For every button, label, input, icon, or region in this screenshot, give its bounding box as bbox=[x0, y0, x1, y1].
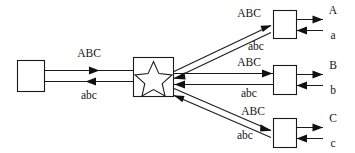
edge-c-to-hub-arrowhead bbox=[174, 95, 185, 102]
terminal-label-b-in: b bbox=[330, 84, 336, 96]
edge-label-bot-upper: ABC bbox=[241, 105, 265, 117]
edge-label-bot-lower: abc bbox=[237, 129, 253, 141]
edge-label-left-lower: abc bbox=[81, 89, 97, 101]
terminal-label-c-out: C bbox=[329, 112, 337, 124]
edge-label-top-upper: ABC bbox=[237, 7, 261, 19]
terminal-b-out-arrowhead bbox=[313, 71, 324, 79]
node-branch-c[interactable] bbox=[274, 119, 297, 148]
terminal-c-out-arrowhead bbox=[313, 124, 324, 132]
edge-label-left-upper: ABC bbox=[77, 47, 101, 59]
node-branch-b[interactable] bbox=[274, 66, 297, 95]
terminal-label-a-out: A bbox=[329, 4, 338, 16]
edge-hub-to-a-arrowhead bbox=[261, 25, 272, 32]
edge-hub-to-b-arrowhead bbox=[262, 70, 273, 78]
edge-hub-to-c-arrowhead bbox=[260, 124, 272, 131]
edge-label-top-lower: abc bbox=[248, 40, 264, 52]
terminal-c-in-arrowhead bbox=[297, 135, 308, 143]
edge-left-inbound-arrowhead bbox=[86, 78, 97, 86]
node-left-terminal[interactable] bbox=[18, 61, 45, 92]
terminal-label-a-in: a bbox=[330, 29, 335, 41]
terminal-label-c-in: c bbox=[330, 137, 335, 149]
node-branch-a[interactable] bbox=[274, 11, 297, 39]
terminal-a-in-arrowhead bbox=[297, 27, 308, 35]
terminal-label-b-out: B bbox=[329, 59, 337, 71]
edge-left-outbound-arrowhead bbox=[89, 67, 100, 75]
terminal-b-in-arrowhead bbox=[297, 82, 308, 90]
flow-diagram: ABC abc ABC abc A a ABC abc B bbox=[0, 0, 355, 153]
edge-label-mid-upper: ABC bbox=[237, 56, 261, 68]
diagram-canvas: ABC abc ABC abc A a ABC abc B bbox=[0, 0, 355, 153]
edge-b-to-hub-arrowhead bbox=[175, 81, 186, 89]
edge-label-mid-lower: abc bbox=[241, 87, 257, 99]
terminal-a-out-arrowhead bbox=[313, 16, 324, 24]
